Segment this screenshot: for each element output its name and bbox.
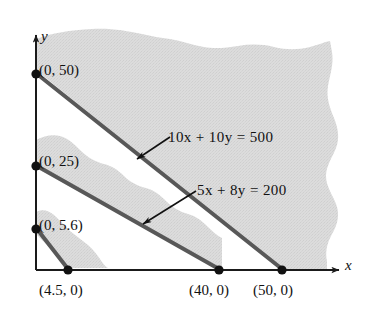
point-label-0-25: (0, 25) xyxy=(39,154,79,169)
point-label-40-0: (40, 0) xyxy=(189,283,229,298)
point-label-50-0: (50, 0) xyxy=(253,283,293,298)
x-axis-label: x xyxy=(345,258,352,273)
marked-point-4p5-0 xyxy=(63,265,72,274)
equation-label-5x-8y-200: 5x + 8y = 200 xyxy=(197,183,287,198)
y-axis-label: y xyxy=(41,29,48,44)
equation-label-10x-10y-500: 10x + 10y = 500 xyxy=(168,130,273,145)
point-label-0-5p6: (0, 5.6) xyxy=(39,218,83,233)
linear-programming-figure: y x (0, 50) (0, 25) (0, 5.6) (4.5, 0) (4… xyxy=(0,0,365,323)
marked-point-50-0 xyxy=(277,265,286,274)
marked-point-40-0 xyxy=(214,265,223,274)
point-label-4p5-0: (4.5, 0) xyxy=(39,283,83,298)
point-label-0-50: (0, 50) xyxy=(39,63,79,78)
